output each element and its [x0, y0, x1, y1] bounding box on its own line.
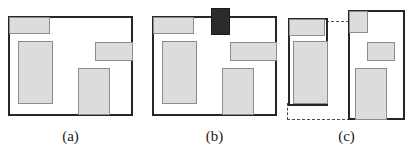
caption-panel-c: (c) [338, 129, 355, 144]
panel-c-right-block-right-wide [367, 42, 395, 61]
panel-c-right-block-bottom-mid [355, 68, 387, 120]
panel-c-left-block-left-tall [293, 41, 328, 104]
figure-three-panel-layout-diagram: (a) (b) (c) [0, 0, 414, 150]
panel-a-block-top-left [9, 17, 50, 34]
panel-b-block-right-wide [230, 42, 277, 61]
panel-b-block-dark-overflow [211, 8, 230, 35]
panel-a-block-bottom-mid [78, 68, 110, 115]
panel-a-block-right-wide [95, 42, 133, 61]
panel-b-block-left-tall [162, 41, 197, 104]
panel-b-block-bottom-mid [222, 68, 254, 115]
caption-panel-b: (b) [206, 129, 224, 144]
panel-c-right-block-top-left [349, 11, 368, 33]
panel-a-block-left-tall [18, 41, 53, 104]
panel-b-block-top-left [153, 17, 194, 34]
caption-panel-a: (a) [62, 129, 79, 144]
panel-c-left-block-top-left [289, 19, 325, 36]
